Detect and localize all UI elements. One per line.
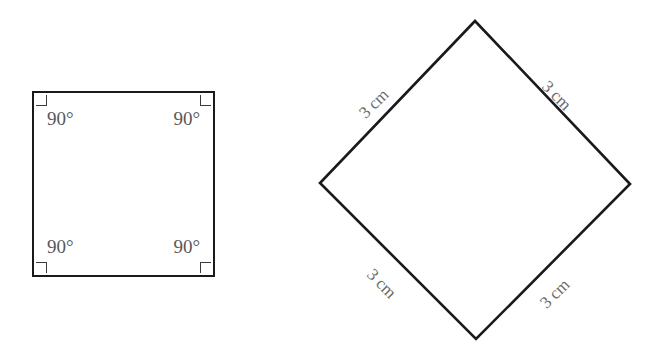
diamond-outline [320, 21, 630, 339]
geometry-figure-canvas: 90° 90° 90° 90° 3 cm 3 cm 3 cm 3 cm [0, 0, 662, 354]
diamond-shape [0, 0, 662, 354]
